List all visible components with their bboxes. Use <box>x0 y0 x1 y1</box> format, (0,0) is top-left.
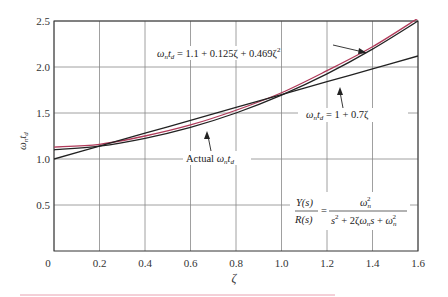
y-tick-label: 2.5 <box>36 15 50 27</box>
x-tick-label: 0.8 <box>229 257 243 269</box>
x-tick-label: 1.0 <box>275 257 289 269</box>
svg-text:s2 + 2ζωns + ωn2: s2 + 2ζωns + ωn2 <box>331 213 397 228</box>
linear-arrowhead <box>337 87 343 95</box>
y-tick-label: 1.5 <box>36 107 50 119</box>
svg-text:Y(s): Y(s) <box>296 197 313 209</box>
actual-arrowhead <box>204 131 210 139</box>
x-tick-label: 0.6 <box>184 257 198 269</box>
quad-arrow <box>333 45 363 52</box>
quad-fit-label: ωntd = 1.1 + 0.125ζ + 0.469ζ2 <box>157 46 281 61</box>
svg-text:=: = <box>321 205 327 216</box>
chart: 00.20.40.60.81.01.21.41.6 0.51.01.52.02.… <box>0 0 448 297</box>
y-tick-labels: 0.51.01.52.02.5 <box>36 15 50 211</box>
x-axis-label: ζ <box>232 271 238 285</box>
x-tick-label: 1.6 <box>411 257 425 269</box>
x-tick-label: 0.4 <box>138 257 152 269</box>
x-tick-label: 1.2 <box>320 257 334 269</box>
svg-text:ωn2: ωn2 <box>360 195 371 210</box>
svg-text:R(s): R(s) <box>294 214 313 226</box>
x-tick-label: 0 <box>45 257 51 269</box>
y-tick-label: 0.5 <box>36 199 50 211</box>
x-tick-label: 1.4 <box>366 257 380 269</box>
y-axis-label: ωntd <box>16 132 30 150</box>
x-tick-labels: 00.20.40.60.81.01.21.41.6 <box>45 257 425 269</box>
y-tick-label: 1.0 <box>36 153 50 165</box>
y-tick-label: 2.0 <box>36 61 50 73</box>
x-tick-label: 0.2 <box>93 257 107 269</box>
